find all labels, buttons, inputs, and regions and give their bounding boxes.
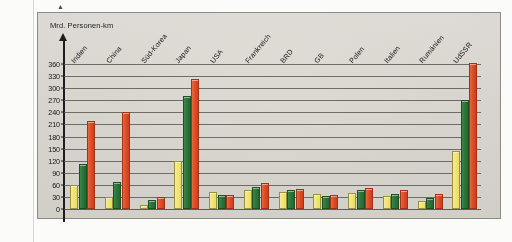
x-axis-category-labels: IndienChinaSüd-KoreaJapanUSAFrankreichBR… [64,13,481,65]
bar [287,190,295,209]
bar [357,190,365,209]
bar-top-highlight [349,194,355,195]
bar-top-highlight [427,199,433,200]
x-axis-category-label: Rumänien [417,33,446,65]
bar-top-highlight [470,64,476,65]
bar [174,161,182,209]
y-tick-label: 270 [48,96,64,105]
bar [226,195,234,209]
bar [330,195,338,209]
bar-top-highlight [149,201,155,202]
bar-top-highlight [123,113,129,114]
bar-group [70,64,96,209]
bar [391,194,399,209]
y-tick-label: 60 [52,180,64,189]
x-axis-category-label: GB [312,51,326,65]
scanned-page: ▲ Mrd. Personen-km IndienChinaSüd-KoreaJ… [0,0,512,242]
bar-group [279,64,305,209]
y-tick-label: 210 [48,120,64,129]
bar-top-highlight [331,196,337,197]
x-axis-category-label: UdSSR [451,40,474,65]
x-axis-category-label: BRD [278,47,295,65]
bar-top-highlight [358,191,364,192]
bar [348,193,356,209]
bar-top-highlight [366,189,372,190]
x-axis-category-label: Indien [69,44,89,65]
bar-top-highlight [184,97,190,98]
y-tick-label: 90 [52,168,64,177]
bar-top-highlight [210,193,216,194]
bar [296,189,304,209]
y-tick-label: 150 [48,144,64,153]
plot-area: 0306090120150180210240270300330360 [64,64,481,209]
bar [469,63,477,209]
chart-figure: Mrd. Personen-km IndienChinaSüd-KoreaJap… [37,12,501,219]
bar-top-highlight [288,191,294,192]
bar [313,194,321,209]
bar [461,100,469,209]
x-axis-category-label: Polen [347,45,366,65]
bar-top-highlight [175,162,181,163]
bar [105,197,113,209]
bar [322,196,330,209]
bar [418,201,426,209]
bar-top-highlight [297,190,303,191]
bar-top-highlight [392,195,398,196]
bar-group [383,64,409,209]
y-tick-label: 30 [52,192,64,201]
bar-group [244,64,270,209]
bar-group [105,64,131,209]
x-axis-category-label: Italien [382,44,402,65]
bars-layer [64,64,481,209]
bar-top-highlight [436,195,442,196]
bar [122,112,130,209]
bar-top-highlight [227,196,233,197]
bar [70,185,78,209]
bar-group [313,64,339,209]
bar [452,151,460,209]
bar [183,96,191,209]
bar-top-highlight [462,101,468,102]
x-axis-category-label: USA [208,48,225,65]
bar-top-highlight [323,197,329,198]
bar [252,187,260,209]
bar [365,188,373,209]
y-tick-label: 180 [48,132,64,141]
bar-top-highlight [192,80,198,81]
bar-top-highlight [419,202,425,203]
bar-top-highlight [314,195,320,196]
y-tick-label: 360 [48,60,64,69]
bar-group [209,64,235,209]
y-tick-label: 120 [48,156,64,165]
bar-top-highlight [453,152,459,153]
bar [87,121,95,209]
bar [400,190,408,209]
bar-group [174,64,200,209]
bar-top-highlight [384,197,390,198]
bar-top-highlight [262,184,268,185]
bar-top-highlight [71,186,77,187]
bar [148,200,156,209]
bar-top-highlight [80,165,86,166]
bar [244,190,252,209]
x-axis-category-label: Frankreich [243,32,273,65]
bar-group [452,64,478,209]
bar-top-highlight [219,196,225,197]
y-tick-label: 330 [48,72,64,81]
bar-top-highlight [141,206,147,207]
bar [426,198,434,209]
bar [435,194,443,209]
bar [209,192,217,209]
bar-top-highlight [245,191,251,192]
bar-group [418,64,444,209]
bar [140,205,148,209]
bar [261,183,269,209]
bar-top-highlight [253,188,259,189]
bar-top-highlight [158,198,164,199]
bar [218,195,226,209]
corner-marker-triangle-icon: ▲ [57,3,64,10]
y-tick-label: 300 [48,84,64,93]
bar [383,196,391,209]
bar [191,79,199,209]
bar-group [348,64,374,209]
